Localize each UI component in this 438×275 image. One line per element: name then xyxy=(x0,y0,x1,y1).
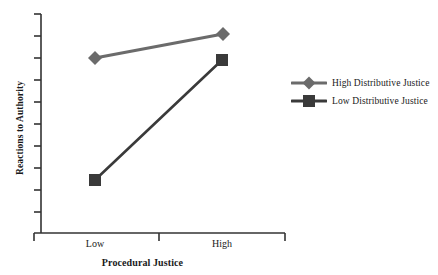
diamond-marker xyxy=(88,51,102,65)
x-tick-label-high: High xyxy=(192,238,252,249)
legend-item-high-distributive-justice[interactable]: High Distributive Justice xyxy=(291,74,438,92)
series-high-distributive-justice xyxy=(88,27,230,65)
legend-item-low-distributive-justice[interactable]: Low Distributive Justice xyxy=(291,92,438,110)
x-tick-label-low: Low xyxy=(65,238,125,249)
legend-label: Low Distributive Justice xyxy=(327,96,428,106)
diamond-marker xyxy=(216,27,230,41)
legend-label: High Distributive Justice xyxy=(327,78,430,88)
y-axis-ticks xyxy=(34,14,41,212)
series-low-line xyxy=(95,60,222,180)
legend-square-marker-sample xyxy=(291,93,327,109)
chart-legend: High Distributive Justice Low Distributi… xyxy=(291,74,438,110)
chart-canvas xyxy=(0,0,438,275)
series-low-distributive-justice xyxy=(89,54,228,186)
interaction-plot-figure: Reactions to Authority Procedural Justic… xyxy=(0,0,438,275)
square-marker xyxy=(216,54,228,66)
x-axis-title: Procedural Justice xyxy=(0,257,285,268)
legend-diamond-marker-sample xyxy=(291,75,327,91)
square-marker xyxy=(89,174,101,186)
series-high-line xyxy=(95,34,223,58)
y-axis-title: Reactions to Authority xyxy=(15,81,25,175)
